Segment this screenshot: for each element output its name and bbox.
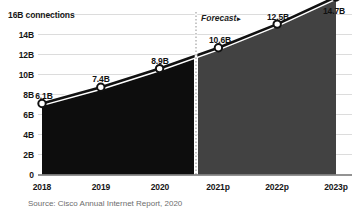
value-label-2023p: 14.7B (323, 6, 345, 16)
y-tick-0: 0 (0, 170, 34, 180)
y-axis-title: 16B connections (8, 10, 75, 20)
x-tick-2021p: 2021p (206, 182, 230, 192)
x-tick-2018: 2018 (33, 182, 52, 192)
source-note: Source: Cisco Annual Internet Report, 20… (28, 199, 182, 208)
historical-area-fill (42, 59, 194, 175)
value-label-2018: 6.1B (35, 91, 53, 101)
forecast-annotation-text: Forecast (201, 13, 236, 23)
value-label-2022p: 12.5B (267, 12, 289, 22)
value-label-2021p: 10.6B (209, 35, 231, 45)
value-label-2019: 7.4B (92, 74, 110, 84)
connections-forecast-chart: 16B connections 14B 12B 10B 8B 6B 4B 2B … (0, 0, 360, 216)
data-point-2021p (215, 44, 222, 51)
x-tick-2023p: 2023p (324, 182, 348, 192)
x-tick-2020: 2020 (151, 182, 170, 192)
y-tick-8b: 8B (0, 90, 34, 100)
y-tick-10b: 10B (0, 70, 34, 80)
value-label-2020: 8.9B (151, 56, 169, 66)
data-point-2023p (332, 0, 339, 1)
y-tick-2b: 2B (0, 150, 34, 160)
chart-canvas (0, 0, 360, 216)
y-tick-14b: 14B (0, 30, 34, 40)
data-point-2019 (97, 84, 104, 91)
forecast-annotation: Forecast▸ (201, 13, 241, 23)
forecast-arrow-icon: ▸ (236, 15, 241, 22)
x-tick-2022p: 2022p (265, 182, 289, 192)
y-tick-12b: 12B (0, 50, 34, 60)
y-tick-4b: 4B (0, 130, 34, 140)
y-tick-6b: 6B (0, 110, 34, 120)
data-point-2020 (156, 65, 163, 72)
x-tick-2019: 2019 (92, 182, 111, 192)
